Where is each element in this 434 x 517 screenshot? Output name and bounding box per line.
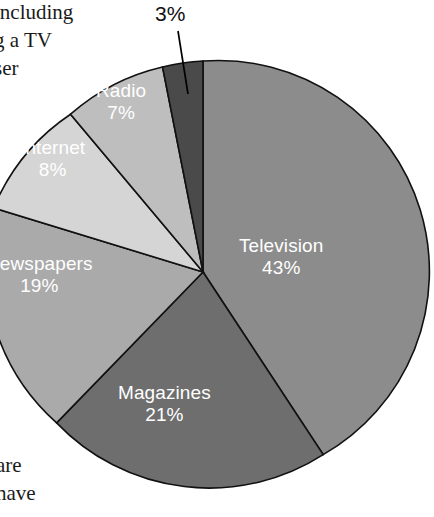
- body-text-bottom-line-2: have: [0, 483, 36, 504]
- slice-label-magazines-name: Magazines: [118, 382, 211, 403]
- body-text-bottom: are have: [0, 455, 36, 511]
- slice-label-television-name: Television: [239, 235, 323, 256]
- slice-label-newspapers-name: Newspapers: [0, 253, 93, 274]
- slice-label-internet-name: Internet: [20, 137, 85, 158]
- figure-canvas: including g a TV ser are have 3% Televis…: [0, 0, 434, 517]
- slice-label-internet: Internet 8%: [20, 137, 85, 182]
- slice-label-magazines: Magazines 21%: [118, 382, 211, 427]
- slice-label-newspapers: Newspapers 19%: [0, 253, 93, 298]
- body-text-top: including g a TV ser: [0, 2, 73, 86]
- slice-label-television-pct: 43%: [239, 257, 323, 279]
- slice-label-radio: Radio 7%: [96, 80, 146, 125]
- slice-label-other: 3%: [155, 2, 185, 26]
- slice-label-radio-name: Radio: [96, 80, 146, 101]
- body-text-top-line-1: including: [0, 2, 73, 23]
- slice-label-internet-pct: 8%: [20, 159, 85, 181]
- body-text-bottom-line-1: are: [0, 455, 36, 476]
- body-text-top-line-3: ser: [0, 58, 73, 79]
- body-text-top-line-2: g a TV: [0, 30, 73, 51]
- slice-label-television: Television 43%: [239, 235, 323, 280]
- slice-label-newspapers-pct: 19%: [0, 275, 93, 297]
- slice-label-radio-pct: 7%: [96, 102, 146, 124]
- slice-label-magazines-pct: 21%: [118, 404, 211, 426]
